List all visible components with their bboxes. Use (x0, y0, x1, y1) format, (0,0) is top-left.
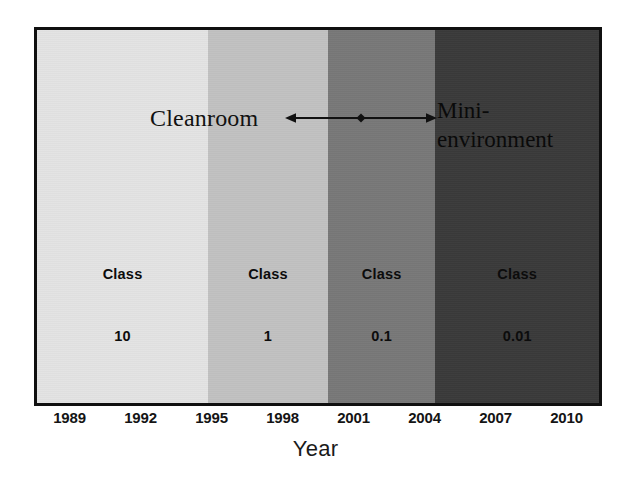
band-class-10: Class 10 (37, 30, 208, 403)
band-class-0-1: Class 0.1 (328, 30, 436, 403)
x-tick-2010: 2010 (531, 409, 602, 426)
band-class-0-01: Class 0.01 (435, 30, 599, 403)
band-class-value: 1 (208, 326, 328, 347)
band-class-name: Class (328, 264, 436, 285)
x-tick-2004: 2004 (389, 409, 460, 426)
band-class-name: Class (37, 264, 208, 285)
x-tick-2001: 2001 (318, 409, 389, 426)
x-axis-title: Year (0, 436, 631, 462)
class-bands: Class 10 Class 1 Class 0.1 Class (37, 30, 599, 403)
x-tick-1998: 1998 (247, 409, 318, 426)
band-class-value: 0.1 (328, 326, 436, 347)
band-class-1: Class 1 (208, 30, 328, 403)
band-class-value: 0.01 (435, 326, 599, 347)
cleanroom-class-timeline-figure: Class 10 Class 1 Class 0.1 Class (0, 0, 631, 477)
band-label-class-0-01: Class 0.01 (435, 223, 599, 388)
band-class-value: 10 (37, 326, 208, 347)
x-tick-1995: 1995 (176, 409, 247, 426)
band-class-name: Class (435, 264, 599, 285)
x-axis-tick-labels: 1989 1992 1995 1998 2001 2004 2007 2010 (34, 409, 602, 426)
x-tick-1989: 1989 (34, 409, 105, 426)
band-label-class-10: Class 10 (37, 223, 208, 388)
x-tick-1992: 1992 (105, 409, 176, 426)
band-label-class-1: Class 1 (208, 223, 328, 388)
band-label-class-0-1: Class 0.1 (328, 223, 436, 388)
plot-area: Class 10 Class 1 Class 0.1 Class (34, 27, 602, 406)
x-tick-2007: 2007 (460, 409, 531, 426)
band-class-name: Class (208, 264, 328, 285)
